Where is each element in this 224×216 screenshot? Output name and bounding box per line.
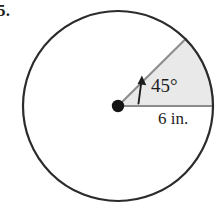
radius-length-label: 6 in. <box>158 110 188 127</box>
geometry-figure: 5. 45° 6 in. <box>0 0 224 216</box>
exercise-number-label: 5. <box>0 2 10 19</box>
angle-measure-label: 45° <box>151 76 178 95</box>
circle-sector-diagram <box>0 0 224 216</box>
center-point-dot <box>112 100 124 112</box>
